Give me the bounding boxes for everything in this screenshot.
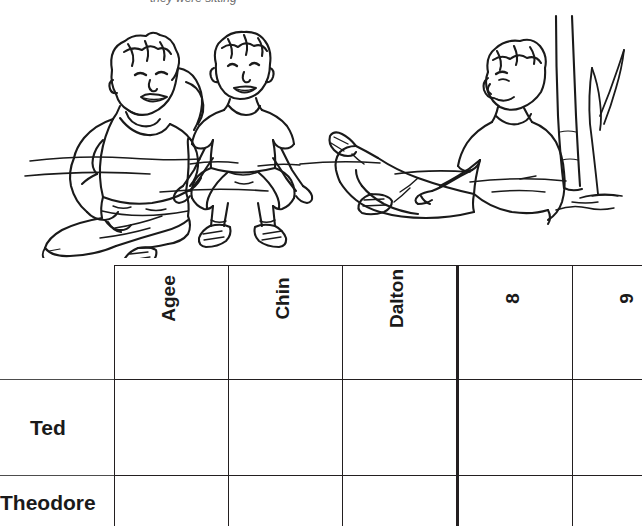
- cell-ted-age-9[interactable]: [572, 380, 642, 476]
- cell-ted-dalton[interactable]: [342, 380, 457, 476]
- row-header-theodore: Theodore: [0, 476, 114, 526]
- column-header-dalton: Dalton: [342, 266, 457, 380]
- column-header-agee: Agee: [114, 266, 228, 380]
- column-header-age-9-label: 9: [617, 242, 637, 355]
- cell-theodore-dalton[interactable]: [342, 476, 457, 526]
- caption-text: they were sitting: [150, 0, 237, 5]
- table-row: Ted: [0, 380, 642, 476]
- cell-theodore-age-9[interactable]: [572, 476, 642, 526]
- row-header-ted-label: Ted: [0, 416, 114, 440]
- column-header-chin: Chin: [228, 266, 342, 380]
- grid-corner-cell: [0, 266, 114, 380]
- column-header-dalton-label: Dalton: [387, 242, 407, 355]
- column-header-agee-label: Agee: [159, 242, 179, 355]
- column-header-chin-label: Chin: [273, 242, 293, 355]
- column-header-age-9: 9: [572, 266, 642, 380]
- column-header-age-8: 8: [457, 266, 572, 380]
- cell-theodore-chin[interactable]: [228, 476, 342, 526]
- row-header-ted: Ted: [0, 380, 114, 476]
- illustration-three-boys-sitting: [0, 6, 642, 258]
- cell-theodore-age-8[interactable]: [457, 476, 572, 526]
- cell-theodore-agee[interactable]: [114, 476, 228, 526]
- grid-table: Agee Chin Dalton 8 9 10: [0, 265, 642, 526]
- column-header-age-8-label: 8: [503, 242, 523, 355]
- grid-header-row: Agee Chin Dalton 8 9 10: [0, 266, 642, 380]
- table-row: Theodore: [0, 476, 642, 526]
- cell-ted-agee[interactable]: [114, 380, 228, 476]
- row-header-theodore-label: Theodore: [0, 491, 114, 515]
- cell-ted-age-8[interactable]: [457, 380, 572, 476]
- logic-puzzle-grid: Agee Chin Dalton 8 9 10: [0, 265, 642, 526]
- cell-ted-chin[interactable]: [228, 380, 342, 476]
- illustration-svg: [0, 6, 642, 258]
